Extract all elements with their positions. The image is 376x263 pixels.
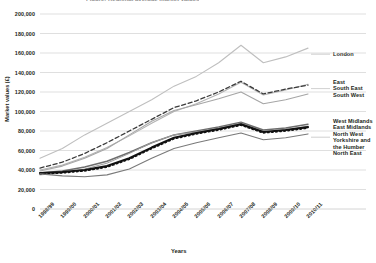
- series-line: [40, 125, 308, 174]
- legend-connector-lines: [311, 54, 330, 137]
- chart-container: Figure: Regional average market values M…: [0, 0, 376, 263]
- gridlines: [40, 14, 366, 209]
- series-lines: [40, 45, 308, 177]
- series-line: [40, 82, 308, 170]
- series-line: [40, 122, 308, 173]
- plot-area: [0, 0, 376, 263]
- series-line: [40, 45, 308, 158]
